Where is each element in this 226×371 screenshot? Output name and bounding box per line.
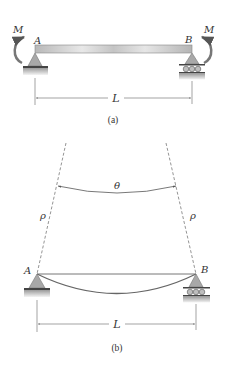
support-label-b: B: [184, 34, 192, 45]
moment-arrow-left-icon: [15, 37, 24, 63]
pin-support-a: [23, 53, 48, 75]
beam-bending-diagram: M A B M L (a) θ ρ ρ: [0, 0, 226, 371]
support-label-a: A: [33, 35, 41, 46]
support-label-a: A: [23, 265, 31, 276]
radius-line-right: [166, 143, 196, 274]
moment-label-right: M: [203, 24, 215, 35]
moment-label-left: M: [12, 24, 24, 35]
radius-label-left: ρ: [39, 210, 46, 221]
pin-support-a: [24, 274, 50, 297]
beam: [35, 45, 192, 53]
span-label-a: L: [111, 92, 119, 105]
support-label-b: B: [200, 264, 208, 275]
angle-label: θ: [114, 180, 120, 191]
roller-support-b: [179, 53, 205, 80]
span-label-b: L: [112, 318, 120, 331]
radius-label-right: ρ: [189, 210, 196, 221]
figure-b: θ ρ ρ A B L: [23, 143, 210, 354]
radius-line-left: [37, 143, 66, 274]
figure-a: M A B M L (a): [12, 24, 215, 126]
deflected-beam: [37, 274, 196, 294]
caption-b: (b): [111, 343, 122, 354]
moment-arrow-right-icon: [202, 37, 211, 63]
caption-a: (a): [108, 115, 119, 126]
